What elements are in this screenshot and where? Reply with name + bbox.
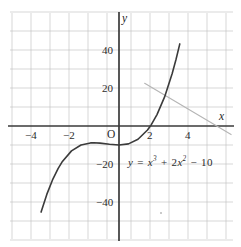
equation-constant: 10 [201,156,213,168]
x-tick-4: 4 [185,130,191,141]
x-tick-2: 2 [147,130,153,141]
equation-lhs: y [128,156,133,168]
graph-figure: y x O −4 −2 2 4 40 20 −20 −40 y = x3 + 2… [0,0,241,247]
coordinate-plot [0,0,241,247]
origin-label: O [107,129,115,141]
equation-term2-exponent: 2 [183,155,187,163]
axis-lines [8,12,234,241]
equation-annotation: y = x3 + 2x2 − 10 [128,157,213,168]
x-tick-minus-4: −4 [25,130,37,141]
equation-plus: + [160,156,169,168]
x-tick-minus-2: −2 [63,130,75,141]
y-tick-minus-20: −20 [96,159,113,170]
y-axis-label: y [122,13,127,25]
equation-equals: = [136,156,145,168]
y-tick-20: 20 [102,83,113,94]
x-axis-label: x [219,111,224,123]
y-tick-40: 40 [102,45,113,56]
equation-term1-exponent: 3 [153,155,157,163]
equation-minus: − [190,156,199,168]
paper-speck [160,212,162,214]
y-tick-minus-40: −40 [96,197,113,208]
